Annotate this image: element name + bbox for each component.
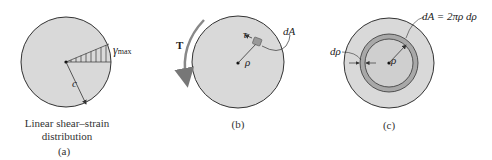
- rho-label-c: ρ: [391, 55, 396, 66]
- panel-a-caption: Linear shear–strain distribution: [14, 117, 120, 143]
- rho-label: ρ: [245, 57, 250, 68]
- panel-a-shaft-section: [21, 17, 111, 107]
- tau-label: τ: [243, 29, 247, 40]
- dA-label: dA: [283, 26, 295, 37]
- dA-equation-label: dA = 2πρ dρ: [422, 11, 477, 22]
- panel-b-shaft-section: [185, 16, 290, 108]
- panel-a-tag: (a): [52, 145, 76, 158]
- torque-label: T: [176, 40, 183, 51]
- drho-label: dρ: [330, 46, 341, 57]
- panel-c-shaft-section: [342, 17, 434, 108]
- panel-b-tag: (b): [226, 118, 250, 131]
- panel-c-tag: (c): [377, 119, 401, 132]
- gamma-max-label: γmax: [113, 44, 132, 56]
- radius-c-label: c: [72, 78, 77, 89]
